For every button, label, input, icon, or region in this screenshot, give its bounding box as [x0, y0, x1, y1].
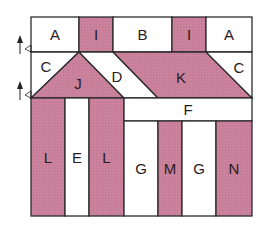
piece-label: G: [135, 160, 147, 177]
piece-label: J: [74, 75, 82, 92]
piece-label: N: [229, 160, 240, 177]
piece-label: L: [102, 149, 110, 166]
piece-label: A: [50, 26, 60, 43]
piece-label: G: [193, 160, 205, 177]
piece-label: L: [44, 149, 52, 166]
piece-label: K: [176, 69, 186, 86]
up-arrow-icon: [17, 35, 31, 54]
piece-label: B: [137, 26, 147, 43]
quilt-block-diagram: AIBIACJDKCLELFGMGN: [0, 0, 271, 230]
piece-label: I: [94, 26, 98, 43]
piece-label: I: [187, 26, 191, 43]
piece-label: A: [224, 26, 234, 43]
piece-label: D: [112, 68, 123, 85]
piece-label: F: [183, 101, 192, 118]
quilt-pieces: [31, 17, 252, 216]
piece-label: C: [41, 58, 52, 75]
direction-markers: [17, 35, 31, 100]
piece-label: E: [72, 149, 82, 166]
up-arrow-icon: [17, 81, 31, 100]
piece-label: M: [164, 160, 177, 177]
piece-label: C: [234, 59, 245, 76]
